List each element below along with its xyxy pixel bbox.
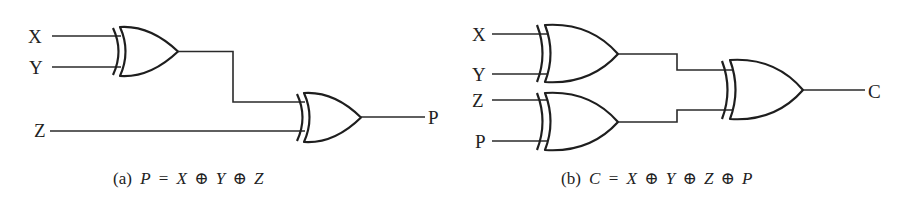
caption-b: (b) C = X ⊕ Y ⊕ Z ⊕ P [561, 169, 752, 188]
wire-xor1-out [178, 52, 305, 103]
or-body [304, 93, 361, 142]
input-label-y: Y [29, 57, 43, 78]
xor-input-arc [297, 94, 303, 141]
or-body [545, 93, 618, 151]
input-label-z: Z [472, 90, 484, 111]
xor-gate-1 [537, 25, 618, 83]
or-body [730, 60, 803, 120]
xor-gate-2 [537, 93, 618, 151]
input-label-x: X [28, 26, 42, 47]
input-label-z: Z [34, 120, 46, 141]
xor-gate-2 [297, 93, 361, 142]
panel-b-parity-checker: X Y Z P C (b) C [472, 24, 881, 188]
xor-gate-1 [113, 27, 178, 76]
caption-a: (a) P = X ⊕ Y ⊕ Z [113, 169, 264, 188]
or-body [545, 25, 618, 83]
wire-xor2-out [618, 110, 732, 122]
or-body [120, 27, 178, 76]
output-label-c: C [868, 81, 881, 102]
output-label-p: P [428, 107, 439, 128]
xor-parity-diagram: X Y Z P (a) P = X ⊕ Y ⊕ Z [0, 0, 909, 204]
input-label-p: P [475, 131, 486, 152]
panel-a-parity-generator: X Y Z P (a) P = X ⊕ Y ⊕ Z [28, 26, 439, 188]
xor-input-arc [113, 28, 119, 75]
xor-gate-3 [722, 60, 803, 120]
input-label-y: Y [472, 64, 486, 85]
input-label-x: X [472, 24, 486, 45]
wire-xor1-out [618, 54, 732, 70]
